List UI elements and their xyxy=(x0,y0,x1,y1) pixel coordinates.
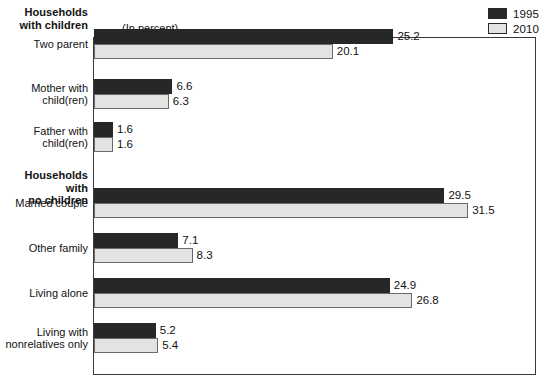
bar-group: Two parent25.220.1 xyxy=(0,27,547,61)
bar-row-1995: 6.6 xyxy=(94,79,192,94)
legend-item-1995: 1995 xyxy=(488,7,539,20)
bar-group: Mother with child(ren)6.66.3 xyxy=(0,77,547,111)
bar-row-1995: 1.6 xyxy=(94,122,133,137)
bar-group: Living alone24.926.8 xyxy=(0,276,547,310)
bar-group: Living with nonrelatives only5.25.4 xyxy=(0,321,547,355)
bar-2010 xyxy=(94,338,158,353)
bar-row-2010: 31.5 xyxy=(94,203,495,218)
bar-row-1995: 25.2 xyxy=(94,29,420,44)
legend-label-1995: 1995 xyxy=(513,8,539,20)
bar-1995 xyxy=(94,323,156,338)
bar-pair: 29.531.5 xyxy=(94,188,495,222)
bar-value-label: 1.6 xyxy=(117,138,133,151)
bar-group: Father with child(ren)1.61.6 xyxy=(0,120,547,154)
bar-2010 xyxy=(94,137,113,152)
bar-row-1995: 7.1 xyxy=(94,233,213,248)
bar-row-2010: 26.8 xyxy=(94,293,439,308)
bar-value-label: 6.6 xyxy=(176,80,192,93)
bar-value-label: 25.2 xyxy=(397,30,419,43)
bar-row-1995: 24.9 xyxy=(94,278,439,293)
bar-1995 xyxy=(94,122,113,137)
bar-row-2010: 8.3 xyxy=(94,248,213,263)
bar-group: Married couple29.531.5 xyxy=(0,186,547,220)
bar-value-label: 31.5 xyxy=(472,204,494,217)
bar-1995 xyxy=(94,278,390,293)
category-label: Living alone xyxy=(0,287,88,300)
bar-pair: 24.926.8 xyxy=(94,278,439,312)
bar-1995 xyxy=(94,233,178,248)
bar-group: Other family7.18.3 xyxy=(0,231,547,265)
category-label: Two parent xyxy=(0,38,88,51)
bar-value-label: 5.2 xyxy=(160,324,176,337)
bar-pair: 25.220.1 xyxy=(94,29,420,63)
bar-1995 xyxy=(94,79,172,94)
bar-2010 xyxy=(94,44,333,59)
category-label: Other family xyxy=(0,242,88,255)
bar-row-2010: 5.4 xyxy=(94,338,178,353)
bar-1995 xyxy=(94,29,393,44)
bar-value-label: 8.3 xyxy=(197,249,213,262)
bar-row-2010: 1.6 xyxy=(94,137,133,152)
category-label: Mother with child(ren) xyxy=(0,82,88,107)
category-label: Living with nonrelatives only xyxy=(0,326,88,351)
category-label: Father with child(ren) xyxy=(0,125,88,150)
bar-value-label: 5.4 xyxy=(162,339,178,352)
bar-value-label: 26.8 xyxy=(416,294,438,307)
bar-value-label: 7.1 xyxy=(182,234,198,247)
bar-row-2010: 6.3 xyxy=(94,94,192,109)
category-label: Married couple xyxy=(0,197,88,210)
bar-pair: 7.18.3 xyxy=(94,233,213,267)
bar-1995 xyxy=(94,188,444,203)
bar-2010 xyxy=(94,203,468,218)
bar-row-1995: 5.2 xyxy=(94,323,178,338)
bar-pair: 6.66.3 xyxy=(94,79,192,113)
bar-2010 xyxy=(94,293,412,308)
bar-value-label: 20.1 xyxy=(337,45,359,58)
bar-value-label: 24.9 xyxy=(394,279,416,292)
bar-row-1995: 29.5 xyxy=(94,188,495,203)
bar-2010 xyxy=(94,248,193,263)
bar-2010 xyxy=(94,94,169,109)
bar-pair: 5.25.4 xyxy=(94,323,178,357)
bar-row-2010: 20.1 xyxy=(94,44,420,59)
bar-pair: 1.61.6 xyxy=(94,122,133,156)
bar-value-label: 29.5 xyxy=(448,189,470,202)
chart-figure: 1995 2010 Households with children House… xyxy=(0,0,547,387)
bar-value-label: 1.6 xyxy=(117,123,133,136)
bar-value-label: 6.3 xyxy=(173,95,189,108)
legend-swatch-1995 xyxy=(488,8,507,19)
